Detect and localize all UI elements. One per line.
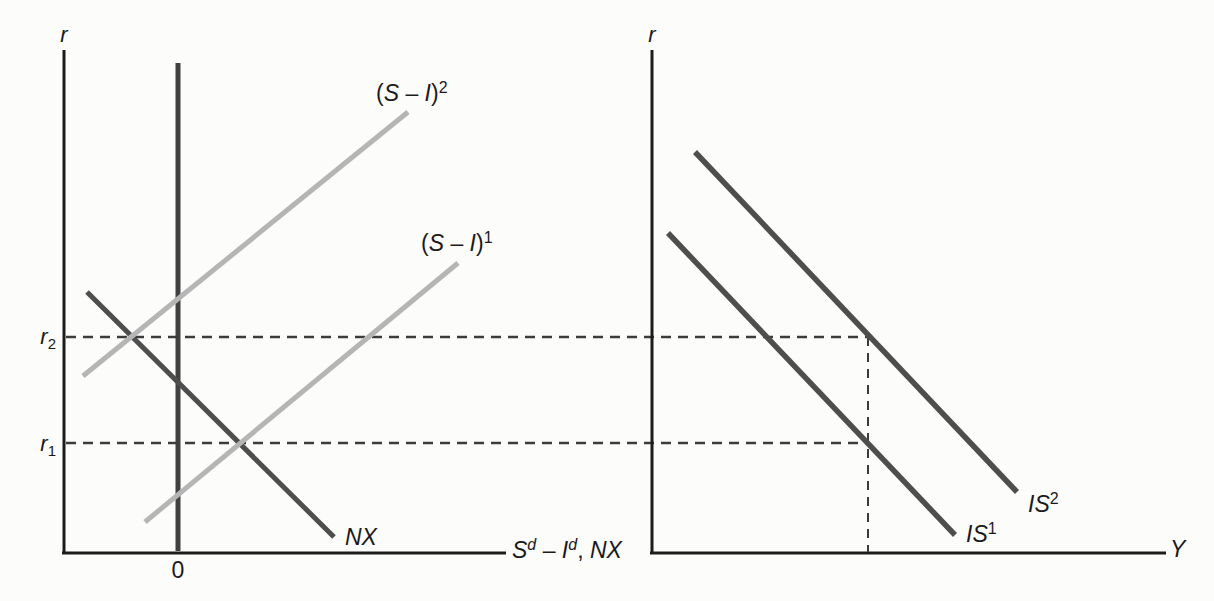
- two-panel-diagram: r(S – I)2(S – I)1NXr2r10Sd – Id, NXrIS2I…: [0, 0, 1214, 601]
- figure-canvas: r(S – I)2(S – I)1NXr2r10Sd – Id, NXrIS2I…: [0, 0, 1214, 601]
- is2-curve: [695, 152, 1017, 492]
- nx-curve: [87, 292, 334, 537]
- is2-curve-label: IS2: [1028, 490, 1059, 517]
- zero-tick-label: 0: [172, 557, 185, 583]
- r1-tick-label: r1: [40, 431, 56, 459]
- nx-curve-label: NX: [345, 524, 379, 550]
- left-x-axis-label: Sd – Id, NX: [512, 536, 624, 563]
- right-panel-is-curves: rIS2IS1Y: [648, 22, 1187, 562]
- s-minus-i-1-label: (S – I)1: [421, 229, 493, 256]
- is1-curve-label: IS1: [966, 520, 997, 547]
- right-y-axis-label: r: [648, 22, 657, 47]
- s-minus-i-1-curve: [145, 263, 458, 522]
- left-y-axis-label: r: [60, 22, 69, 47]
- left-panel-saving-investment-nx: r(S – I)2(S – I)1NXr2r10Sd – Id, NX: [40, 22, 869, 583]
- r2-tick-label: r2: [40, 324, 56, 352]
- s-minus-i-2-label: (S – I)2: [376, 79, 448, 106]
- right-x-axis-label: Y: [1170, 536, 1187, 562]
